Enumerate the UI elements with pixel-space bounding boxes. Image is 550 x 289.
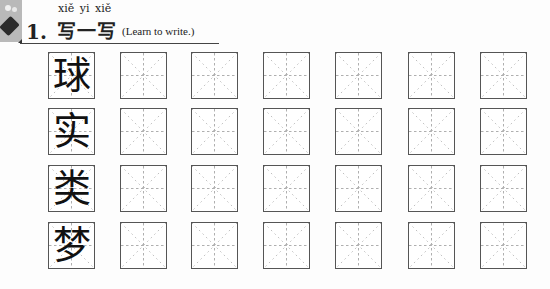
practice-cell[interactable] <box>408 165 455 212</box>
model-character: 实 <box>49 109 94 154</box>
practice-cell[interactable] <box>263 108 310 155</box>
practice-cell[interactable] <box>263 52 310 99</box>
rice-grid-guides <box>264 223 309 268</box>
rice-grid-guides <box>192 166 237 211</box>
rice-grid-guides <box>481 223 526 268</box>
rice-grid-guides <box>336 223 381 268</box>
brush-tip <box>5 5 11 11</box>
practice-cell[interactable] <box>191 165 238 212</box>
practice-cell[interactable] <box>120 108 167 155</box>
rice-grid-guides <box>264 109 309 154</box>
model-character-cell: 球 <box>48 52 95 99</box>
exercise-title: 写一写 <box>57 16 117 43</box>
practice-cell[interactable] <box>120 52 167 99</box>
rice-grid-guides <box>409 223 454 268</box>
practice-cell[interactable] <box>480 108 527 155</box>
practice-cell[interactable] <box>335 165 382 212</box>
rice-grid-guides <box>336 109 381 154</box>
rice-grid-guides <box>409 166 454 211</box>
practice-cell[interactable] <box>120 222 167 269</box>
rice-grid-guides <box>121 223 166 268</box>
practice-cell[interactable] <box>408 52 455 99</box>
practice-cell[interactable] <box>120 165 167 212</box>
practice-cell[interactable] <box>263 165 310 212</box>
model-character: 球 <box>49 53 94 98</box>
model-character-cell: 类 <box>48 165 95 212</box>
rice-grid-guides <box>192 53 237 98</box>
rice-grid-guides <box>121 166 166 211</box>
rice-grid-guides <box>264 53 309 98</box>
practice-cell[interactable] <box>335 108 382 155</box>
practice-cell[interactable] <box>191 108 238 155</box>
practice-cell[interactable] <box>263 222 310 269</box>
rice-grid-guides <box>121 53 166 98</box>
rice-grid-guides <box>409 53 454 98</box>
model-character-cell: 梦 <box>48 222 95 269</box>
brush-tip-highlight <box>12 7 17 12</box>
rice-grid-guides <box>481 53 526 98</box>
rice-grid-guides <box>409 109 454 154</box>
rice-grid-guides <box>481 166 526 211</box>
ink-bottle-shape <box>0 16 20 37</box>
rice-grid-guides <box>336 166 381 211</box>
rice-grid-guides <box>192 223 237 268</box>
exercise-number: 1. <box>26 20 47 44</box>
rice-grid-guides <box>336 53 381 98</box>
practice-cell[interactable] <box>480 222 527 269</box>
practice-cell[interactable] <box>480 52 527 99</box>
practice-cell[interactable] <box>335 222 382 269</box>
practice-cell[interactable] <box>191 52 238 99</box>
model-character: 梦 <box>49 223 94 268</box>
title-underline <box>20 43 219 44</box>
title-pinyin: xiě yi xiě <box>58 2 111 15</box>
practice-cell[interactable] <box>191 222 238 269</box>
model-character: 类 <box>49 166 94 211</box>
brush-ink-icon <box>0 0 22 42</box>
model-character-cell: 实 <box>48 108 95 155</box>
practice-cell[interactable] <box>335 52 382 99</box>
rice-grid-guides <box>481 109 526 154</box>
exercise-subtitle: (Learn to write.) <box>122 25 194 37</box>
practice-cell[interactable] <box>408 222 455 269</box>
rice-grid-guides <box>121 109 166 154</box>
rice-grid-guides <box>264 166 309 211</box>
practice-cell[interactable] <box>408 108 455 155</box>
practice-cell[interactable] <box>480 165 527 212</box>
rice-grid-guides <box>192 109 237 154</box>
